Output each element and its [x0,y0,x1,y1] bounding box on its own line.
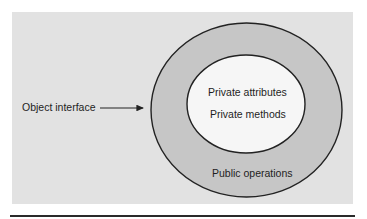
public-operations-label: Public operations [212,167,293,179]
inner-core-private [187,55,305,153]
object-interface-label: Object interface [22,101,96,113]
bottom-rule [10,215,355,217]
private-attributes-label: Private attributes [208,86,287,98]
private-methods-label: Private methods [210,108,286,120]
